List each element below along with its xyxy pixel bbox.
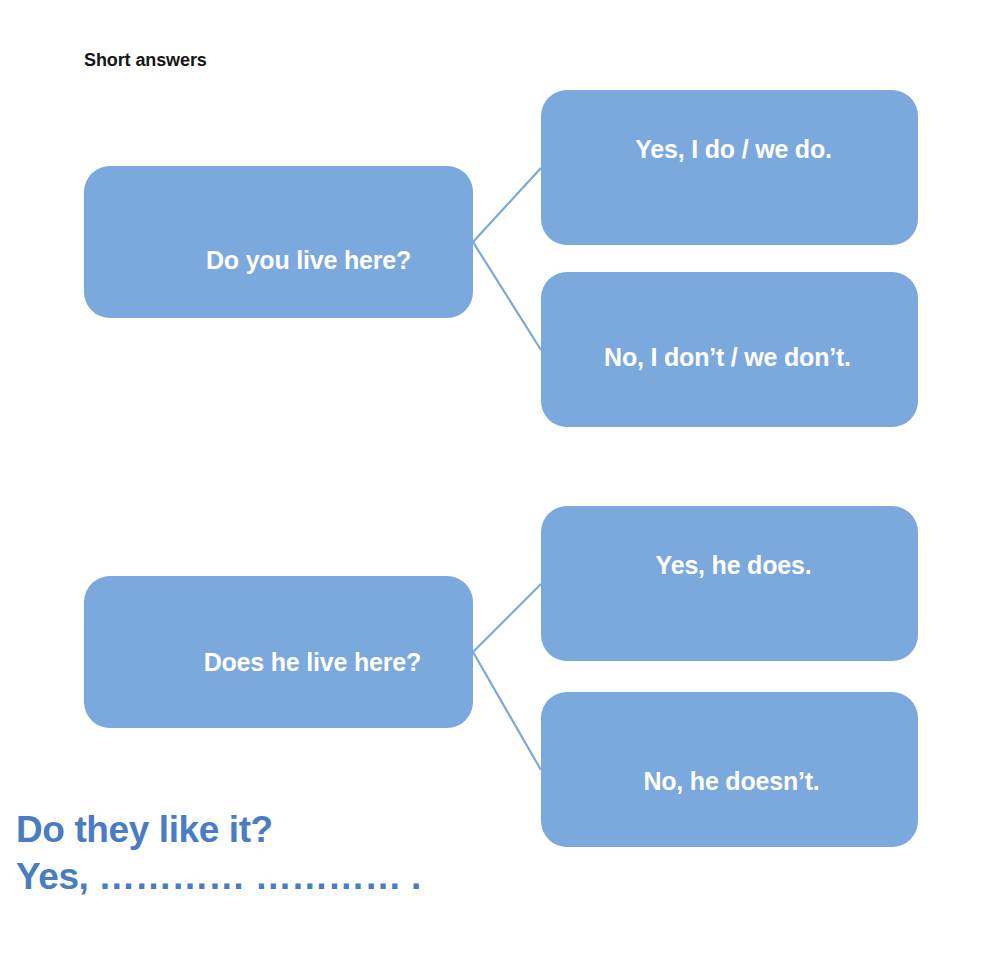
answer-box-yes-he-does[interactable]: Yes, he does. — [541, 506, 918, 661]
connector-q1-to-yes — [473, 168, 541, 242]
answer-label: No, he doesn’t. — [643, 768, 819, 796]
worksheet-page: Short answers Do you live here? Yes, I d… — [0, 0, 994, 957]
prompt-question: Do they like it? — [16, 806, 421, 853]
connector-q1-to-no — [473, 242, 541, 350]
practice-prompt: Do they like it? Yes, ………… ………… . — [16, 806, 421, 900]
page-title: Short answers — [84, 50, 207, 71]
answer-box-no-he-doesnt[interactable]: No, he doesn’t. — [541, 692, 918, 847]
answer-label: Yes, he does. — [656, 552, 812, 580]
connector-q2-to-no — [473, 652, 541, 770]
answer-label: Yes, I do / we do. — [635, 136, 831, 164]
connector-q2-to-yes — [473, 584, 541, 652]
question-label: Do you live here? — [206, 247, 411, 275]
answer-box-no-i-dont[interactable]: No, I don’t / we don’t. — [541, 272, 918, 427]
question-label: Does he live here? — [204, 649, 421, 677]
prompt-answer-blank: Yes, ………… ………… . — [16, 853, 421, 900]
answer-box-yes-i-do[interactable]: Yes, I do / we do. — [541, 90, 918, 245]
question-box-does-he-live-here[interactable]: Does he live here? — [84, 576, 473, 728]
answer-label: No, I don’t / we don’t. — [604, 344, 851, 372]
question-box-do-you-live-here[interactable]: Do you live here? — [84, 166, 473, 318]
